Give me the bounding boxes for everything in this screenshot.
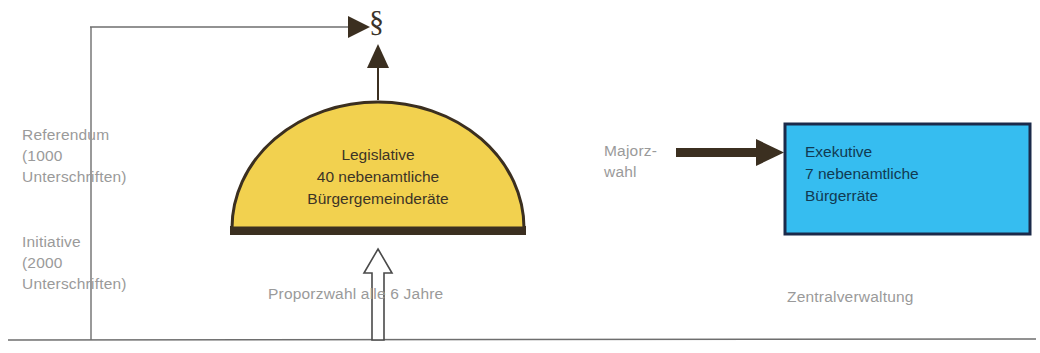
diagram-canvas: § Referendum (1000 Unterschriften) Initi… (0, 0, 1040, 353)
exekutive-node-text: Exekutive 7 nebenamtliche Bürgerräte (805, 141, 919, 207)
majorzwahl-arrow-shaft (676, 148, 760, 157)
label-proporzwahl: Proporzwahl alle 6 Jahre (268, 283, 443, 304)
baseline-rule (8, 339, 1036, 340)
label-majorzwahl: Majorz- wahl (604, 140, 657, 182)
majorzwahl-arrowhead-icon (756, 139, 784, 166)
label-zentralverwaltung: Zentralverwaltung (787, 286, 914, 307)
legislative-to-law-arrowhead-icon (367, 44, 389, 68)
legislative-node-text: Legislative 40 nebenamtliche Bürgergemei… (232, 144, 524, 210)
law-paragraph-symbol: § (369, 6, 384, 36)
label-initiative: Initiative (2000 Unterschriften) (22, 231, 127, 294)
referendum-arrowhead-icon (348, 16, 370, 38)
label-referendum: Referendum (1000 Unterschriften) (22, 124, 127, 187)
